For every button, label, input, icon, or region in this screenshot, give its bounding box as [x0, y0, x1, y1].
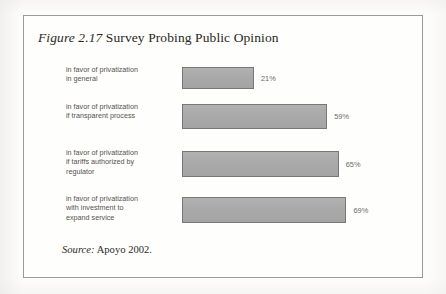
bar-label: in favor of privatizationin general [66, 65, 178, 84]
bar [182, 197, 346, 223]
bar-value-label: 59% [334, 112, 349, 121]
bar-label-line: regulator [66, 167, 178, 176]
bar-label: in favor of privatizationif transparent … [66, 102, 178, 121]
figure-frame: Figure 2.17 Survey Probing Public Opinio… [23, 15, 423, 278]
bar-label-line: in general [66, 74, 178, 83]
bar-label-line: if transparent process [66, 111, 178, 120]
bar-label-line: in favor of privatization [66, 102, 178, 111]
bar-label-line: in favor of privatization [66, 65, 178, 74]
bar-fill [183, 68, 253, 88]
bar [182, 67, 254, 89]
bar-label: in favor of privatizationif tariffs auth… [66, 148, 178, 176]
bar-value-label: 65% [346, 160, 361, 169]
bar-label-line: if tariffs authorized by [66, 157, 178, 166]
bar-label-line: in favor of privatization [66, 194, 178, 203]
bar-chart: in favor of privatizationin general21%in… [24, 16, 422, 277]
source-label: Source: [62, 244, 95, 255]
bar-label-line: with investment to [66, 203, 178, 212]
bar-fill [183, 152, 338, 176]
bar-fill [183, 105, 326, 128]
bar [182, 104, 327, 129]
source-value: Apoyo 2002. [97, 244, 152, 255]
bar-fill [183, 198, 345, 222]
bar-label-line: in favor of privatization [66, 148, 178, 157]
bar-label-line: expand service [66, 213, 178, 222]
source-note: Source: Apoyo 2002. [62, 244, 152, 255]
bar [182, 151, 339, 177]
bar-label: in favor of privatizationwith investment… [66, 194, 178, 222]
figure-page: Figure 2.17 Survey Probing Public Opinio… [0, 0, 446, 294]
bar-value-label: 21% [261, 74, 276, 83]
bar-value-label: 69% [353, 206, 368, 215]
